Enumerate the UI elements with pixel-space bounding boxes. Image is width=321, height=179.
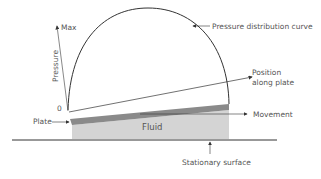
- position-label-1: Position: [252, 68, 281, 77]
- curve-label: Pressure distribution curve: [212, 22, 313, 31]
- lubrication-pressure-diagram: Max Pressure 0 Pressure distribution cur…: [0, 0, 321, 179]
- max-label: Max: [61, 23, 77, 32]
- position-label-2: along plate: [252, 78, 295, 87]
- plate-label: Plate: [33, 117, 52, 126]
- fluid-label: Fluid: [142, 122, 162, 132]
- zero-label: 0: [57, 104, 62, 113]
- stationary-label: Stationary surface: [182, 158, 251, 167]
- movement-label: Movement: [253, 110, 293, 119]
- pressure-distribution-curve: [68, 8, 229, 110]
- pressure-axis-label: Pressure: [51, 50, 60, 82]
